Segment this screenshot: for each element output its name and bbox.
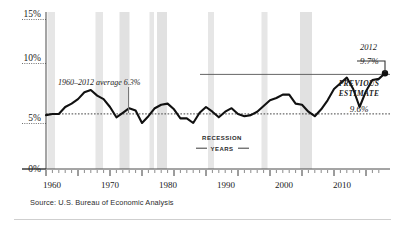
recession-band — [150, 12, 155, 169]
recession-band — [300, 12, 312, 169]
x-tick-label-1970: 1970 — [101, 180, 120, 190]
bottom-divider — [14, 219, 391, 220]
callout-2012-group: 2012 9.7% — [357, 42, 385, 72]
y-tick-label-15: 15% — [24, 9, 42, 19]
average-note-label: 1960–2012 average 6.3% — [58, 78, 141, 87]
source-attribution: Source: U.S. Bureau of Economic Analysis — [30, 198, 174, 207]
x-axis-group: 1960 1970 1980 1990 2000 2010 — [43, 169, 390, 190]
x-tick-label-1990: 1990 — [217, 180, 236, 190]
previous-estimate-group: PREVIOUS ESTIMATE 9.6% — [338, 79, 380, 114]
y-tick-label-10: 10% — [24, 53, 42, 63]
recession-legend-group: RECESSION YEARS — [196, 135, 249, 152]
recession-band — [48, 12, 56, 169]
previous-estimate-label-line2: ESTIMATE — [338, 89, 380, 98]
y-axis-group: 15% 10% 5% 0% — [22, 9, 46, 174]
x-tick-label-1980: 1980 — [159, 180, 178, 190]
corporate-profits-line-chart: 15% 10% 5% 0% — [0, 0, 405, 230]
recession-legend-line2: YEARS — [210, 146, 233, 152]
callout-year-label: 2012 — [360, 42, 378, 52]
x-tick-label-1960: 1960 — [43, 180, 62, 190]
recession-band — [96, 12, 104, 169]
chart-container: 15% 10% 5% 0% — [0, 0, 405, 230]
x-tick-label-2000: 2000 — [275, 180, 294, 190]
recession-legend-line1: RECESSION — [202, 135, 242, 141]
previous-estimate-value: 9.6% — [350, 104, 369, 114]
previous-estimate-label-line1: PREVIOUS — [339, 79, 380, 88]
x-tick-label-2010: 2010 — [333, 180, 352, 190]
recession-band — [157, 12, 167, 169]
recession-band — [262, 12, 268, 169]
y-tick-label-5: 5% — [28, 113, 41, 123]
x-axis-minor-ticks — [52, 170, 378, 173]
x-axis-major-ticks — [46, 170, 366, 176]
